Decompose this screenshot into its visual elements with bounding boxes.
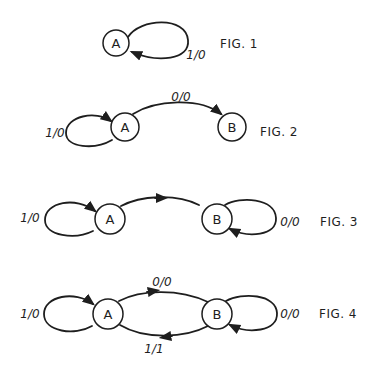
self-loop-b bbox=[225, 200, 276, 234]
self-loop-a bbox=[45, 202, 95, 235]
transition-label-a-a: 1/0 bbox=[20, 211, 40, 225]
figure-2: A B 1/0 0/0 FIG. 2 bbox=[45, 90, 298, 146]
edge-b-to-a-arrow bbox=[165, 336, 172, 337]
state-diagrams: A 1/0 FIG. 1 A B 1/0 0/0 FIG. 2 A B 1/0 … bbox=[0, 0, 377, 376]
state-b-label: B bbox=[213, 212, 222, 227]
figure-label: FIG. 3 bbox=[320, 215, 358, 229]
state-a-label: A bbox=[121, 120, 130, 135]
self-loop-b bbox=[226, 296, 277, 330]
transition-label-a-a: 1/0 bbox=[45, 126, 65, 140]
transition-label-a-b: 0/0 bbox=[171, 90, 191, 104]
transition-label-b-a: 1/1 bbox=[144, 342, 163, 356]
figure-3: A B 1/0 0/0 FIG. 3 bbox=[20, 197, 358, 236]
figure-4: A B 1/0 0/0 0/0 1/1 FIG. 4 bbox=[20, 275, 357, 356]
state-a-label: A bbox=[106, 212, 115, 227]
self-loop-a bbox=[128, 22, 188, 58]
edge-a-to-b-arrow bbox=[147, 291, 154, 292]
figure-label: FIG. 1 bbox=[220, 37, 258, 51]
self-loop-a bbox=[44, 296, 93, 331]
figure-1: A 1/0 FIG. 1 bbox=[103, 22, 258, 62]
figure-label: FIG. 4 bbox=[319, 307, 357, 321]
transition-label-a-a: 1/0 bbox=[20, 307, 40, 321]
transition-label-a-a: 1/0 bbox=[186, 48, 206, 62]
transition-label-b-b: 0/0 bbox=[280, 307, 300, 321]
edge-a-to-b bbox=[133, 102, 221, 114]
figure-label: FIG. 2 bbox=[260, 125, 298, 139]
state-a-label: A bbox=[112, 36, 121, 51]
self-loop-a bbox=[66, 115, 112, 146]
transition-label-b-b: 0/0 bbox=[280, 215, 300, 229]
state-b-label: B bbox=[213, 307, 222, 322]
edge-b-to-a bbox=[120, 325, 208, 336]
edge-a-to-b bbox=[119, 292, 208, 302]
state-a-label: A bbox=[104, 307, 113, 322]
state-b-label: B bbox=[228, 120, 237, 135]
transition-label-a-b: 0/0 bbox=[152, 275, 172, 289]
